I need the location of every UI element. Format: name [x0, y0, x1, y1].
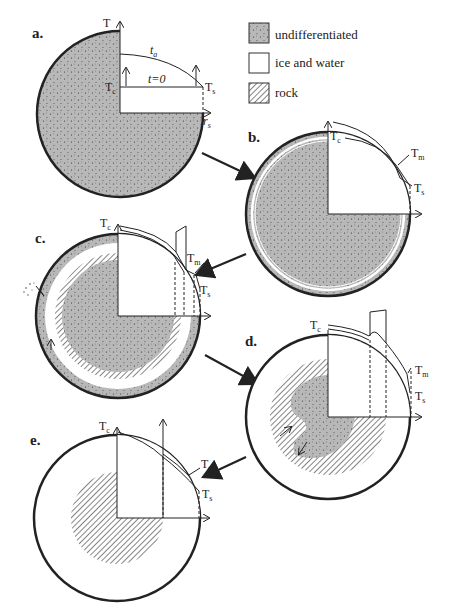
svg-text:Tc: Tc [330, 129, 341, 145]
ejecta-dots [23, 282, 34, 295]
svg-text:Tm: Tm [415, 363, 429, 379]
legend-label-ice: ice and water [275, 55, 345, 70]
melt-spike [370, 310, 386, 343]
panel-b-label: b. [248, 129, 260, 145]
panel-e: e. Tc Tm Ts [30, 419, 215, 601]
panel-a: a. T Tc Ts ta t=0 rs [32, 16, 255, 197]
arrow-a-to-b [202, 153, 255, 178]
panel-c-label: c. [35, 230, 46, 246]
panel-c: c. Tc Tm Ts [23, 216, 258, 398]
legend: undifferentiated ice and water rock [249, 23, 358, 103]
differentiation-diagram: a. T Tc Ts ta t=0 rs undifferentiated ic… [0, 0, 452, 607]
svg-text:Tm: Tm [187, 251, 201, 267]
arrow-b-to-c [196, 254, 246, 275]
panel-e-label: e. [30, 432, 41, 448]
legend-swatch-ice [249, 53, 269, 73]
svg-text:Ts: Ts [414, 181, 424, 197]
panel-d-label: d. [245, 333, 257, 349]
svg-text:Tm: Tm [411, 146, 425, 162]
svg-text:ta: ta [150, 43, 157, 59]
svg-text:Ts: Ts [200, 283, 210, 299]
legend-label-rock: rock [275, 85, 299, 100]
arrow-c-to-d [205, 355, 258, 384]
panel-b: b. Tc Tm Ts [196, 122, 425, 296]
svg-text:Ts: Ts [205, 80, 215, 96]
svg-text:rs: rs [203, 114, 211, 130]
panel-a-label: a. [32, 25, 44, 41]
svg-text:Tc: Tc [310, 318, 321, 334]
svg-text:Tc: Tc [100, 216, 111, 232]
t0-label: t=0 [148, 72, 165, 86]
svg-text:Ts: Ts [415, 389, 425, 405]
panel-d: d. Tc Tm Ts [203, 310, 429, 499]
svg-text:Ts: Ts [202, 487, 212, 503]
legend-swatch-rock [249, 83, 269, 103]
legend-label-undifferentiated: undifferentiated [275, 27, 358, 42]
svg-text:Tm: Tm [201, 457, 215, 473]
T-axis-label: T [103, 16, 111, 30]
svg-text:Tc: Tc [99, 419, 110, 435]
legend-swatch-undifferentiated [249, 23, 269, 43]
